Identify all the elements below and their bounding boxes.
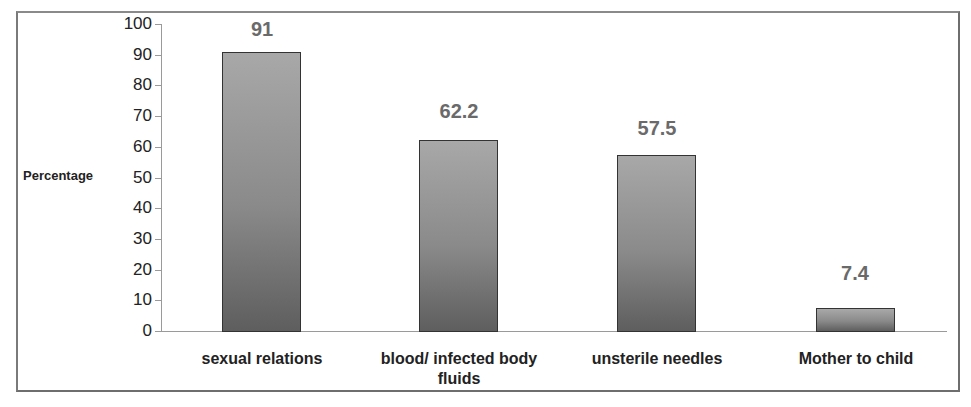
x-category-label: sexual relations (162, 349, 362, 369)
y-tick (155, 300, 161, 301)
x-category-label-line: unsterile needles (557, 349, 757, 369)
y-tick (155, 55, 161, 56)
y-tick-label: 40 (92, 199, 152, 216)
y-tick-label: 30 (92, 230, 152, 247)
y-tick (155, 208, 161, 209)
y-tick (155, 116, 161, 117)
y-tick-label: 70 (92, 107, 152, 124)
y-axis-title: Percentage (23, 168, 93, 183)
bar-unsterile-needles (617, 155, 696, 332)
y-tick-label: 50 (92, 169, 152, 186)
y-tick (155, 270, 161, 271)
y-tick-label: 20 (92, 261, 152, 278)
data-label: 62.2 (399, 100, 519, 123)
y-tick (155, 24, 161, 25)
y-tick (155, 331, 161, 332)
bar-sexual-relations (222, 52, 301, 332)
y-tick (155, 239, 161, 240)
y-tick-label: 90 (92, 46, 152, 63)
x-category-label-line: blood/ infected body (359, 349, 559, 369)
data-label: 91 (202, 18, 322, 41)
x-category-label: Mother to child (756, 349, 956, 369)
y-tick-label: 10 (92, 291, 152, 308)
bar-mother-to-child (816, 308, 895, 332)
bar-blood-infected-body-fluids (419, 140, 498, 332)
data-label: 57.5 (597, 117, 717, 140)
x-category-label: blood/ infected body fluids (359, 349, 559, 389)
y-tick-label: 0 (92, 322, 152, 339)
data-label: 7.4 (795, 262, 915, 285)
y-tick (155, 147, 161, 148)
x-category-label-line: sexual relations (162, 349, 362, 369)
y-axis-line (161, 24, 162, 332)
x-category-label: unsterile needles (557, 349, 757, 369)
y-tick (155, 85, 161, 86)
y-tick (155, 178, 161, 179)
y-tick-label: 100 (92, 15, 152, 32)
y-tick-label: 60 (92, 138, 152, 155)
x-category-label-line: Mother to child (756, 349, 956, 369)
y-tick-label: 80 (92, 76, 152, 93)
x-category-label-line: fluids (359, 369, 559, 389)
